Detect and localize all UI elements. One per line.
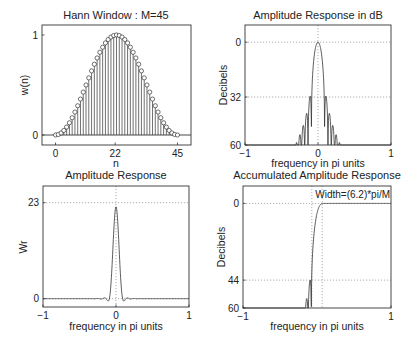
x-tick-label: 0 <box>53 148 59 159</box>
stem-marker <box>70 116 74 120</box>
stem-marker <box>150 97 154 101</box>
x-axis-label: n <box>113 157 119 169</box>
stem-marker <box>153 104 157 108</box>
stem-marker <box>76 104 80 108</box>
y-axis-label: w(n) <box>18 75 30 96</box>
stem-marker <box>148 90 152 94</box>
subplot-accumulated-amplitude-response: Accumulated Amplitude Response −1104460W… <box>215 169 401 332</box>
stem-marker <box>134 56 138 60</box>
x-tick-label: −1 <box>237 311 249 322</box>
stem-marker <box>139 69 143 73</box>
line-plot: −1104460Width=(6.2)*pi/M <box>228 186 394 322</box>
stem-marker <box>98 50 102 54</box>
stem-marker <box>159 116 163 120</box>
subplot-amplitude-response: Amplitude Response −101023 Wr frequency … <box>17 169 192 332</box>
x-tick-label: 1 <box>388 148 394 159</box>
x-tick-label: 45 <box>172 148 184 159</box>
subplot-hann-window: Hann Window : M=45 0224501 w(n) n <box>18 9 191 169</box>
stem-marker <box>67 121 71 125</box>
y-tick-label: 0 <box>32 130 38 141</box>
stem-marker <box>89 69 93 73</box>
x-axis-label: frequency in pi units <box>69 320 162 332</box>
chart-title: Amplitude Response in dB <box>253 9 383 21</box>
y-axis-label: Decibels <box>217 65 229 105</box>
stem-marker <box>142 76 146 80</box>
stem-marker <box>145 83 149 87</box>
stem-marker <box>137 62 141 66</box>
width-annotation: Width=(6.2)*pi/M <box>315 189 390 200</box>
stem-marker <box>125 41 129 45</box>
accumulated-curve <box>243 203 391 308</box>
y-axis-label: Wr <box>17 240 29 254</box>
y-tick-label: 44 <box>228 275 240 286</box>
figure: Hann Window : M=45 0224501 w(n) n Amplit… <box>0 0 404 341</box>
stem-plot: 0224501 <box>32 25 191 159</box>
subplot-amplitude-response-db: Amplitude Response in dB −10103260 Decib… <box>217 9 394 169</box>
y-tick-label: 1 <box>32 30 38 41</box>
stem-marker <box>128 45 132 49</box>
y-tick-label: 0 <box>33 293 39 304</box>
stem-marker <box>87 76 91 80</box>
stem-marker <box>65 125 69 129</box>
stem-marker <box>162 121 166 125</box>
axes-box <box>243 186 391 308</box>
stem-marker <box>84 83 88 87</box>
stem-marker <box>78 97 82 101</box>
y-tick-label: 0 <box>233 198 239 209</box>
x-tick-label: −1 <box>239 148 251 159</box>
stem-marker <box>92 62 96 66</box>
x-tick-label: 1 <box>388 311 394 322</box>
stem-marker <box>73 110 77 114</box>
y-tick-label: 60 <box>228 303 240 314</box>
line-plot: −101023 <box>28 186 192 321</box>
stem-marker <box>156 110 160 114</box>
stem-marker <box>175 133 179 137</box>
y-tick-label: 0 <box>235 37 241 48</box>
stem-marker <box>81 90 85 94</box>
y-tick-label: 23 <box>28 197 40 208</box>
x-tick-label: 1 <box>186 310 192 321</box>
stem-marker <box>131 50 135 54</box>
chart-title: Hann Window : M=45 <box>63 9 168 21</box>
db-response-curve <box>245 42 391 145</box>
x-tick-label: −1 <box>37 310 49 321</box>
y-axis-label: Decibels <box>215 227 227 267</box>
chart-title: Amplitude Response <box>65 169 167 181</box>
y-tick-label: 32 <box>230 92 242 103</box>
stem-marker <box>101 45 105 49</box>
y-tick-label: 60 <box>230 140 242 151</box>
x-axis-label: frequency in pi units <box>271 157 364 169</box>
stem-marker <box>95 56 99 60</box>
line-plot: −10103260 <box>230 25 394 159</box>
amplitude-curve <box>43 207 189 301</box>
x-axis-label: frequency in pi units <box>270 320 363 332</box>
chart-title: Accumulated Amplitude Response <box>233 169 401 181</box>
